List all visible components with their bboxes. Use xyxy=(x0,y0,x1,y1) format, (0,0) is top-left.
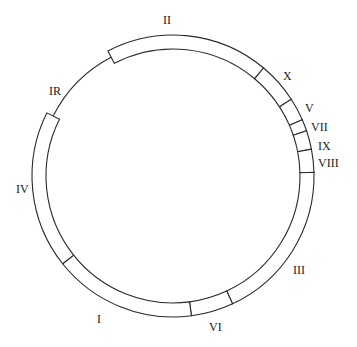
label-x: X xyxy=(283,70,292,82)
label-ix: IX xyxy=(318,140,331,152)
segment-ir-line xyxy=(53,57,111,116)
segment-vi xyxy=(190,291,233,316)
segment-ix xyxy=(293,131,311,152)
genome-map-svg xyxy=(0,0,357,347)
segment-iii xyxy=(227,172,314,303)
label-viii: VIII xyxy=(318,157,339,169)
segment-i xyxy=(63,255,192,317)
label-ir: IR xyxy=(49,85,61,97)
segment-iv xyxy=(32,113,74,264)
label-v: V xyxy=(305,102,314,114)
label-i: I xyxy=(97,313,101,325)
label-ii: II xyxy=(163,14,171,26)
label-vi: VI xyxy=(209,321,222,333)
genome-map-diagram xyxy=(0,0,357,347)
segment-ii xyxy=(108,35,264,79)
label-vii: VII xyxy=(311,121,328,133)
label-iii: III xyxy=(293,264,305,276)
label-iv: IV xyxy=(16,183,29,195)
segment-viii xyxy=(298,149,314,173)
